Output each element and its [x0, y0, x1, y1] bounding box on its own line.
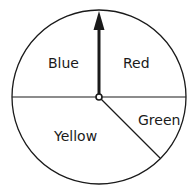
- section-label-yellow: Yellow: [53, 128, 97, 144]
- section-label-green: Green: [138, 112, 180, 128]
- pivot-icon: [96, 94, 102, 100]
- spinner-diagram: Blue Red Green Yellow: [0, 0, 195, 187]
- section-label-blue: Blue: [48, 55, 79, 71]
- section-label-red: Red: [123, 55, 150, 71]
